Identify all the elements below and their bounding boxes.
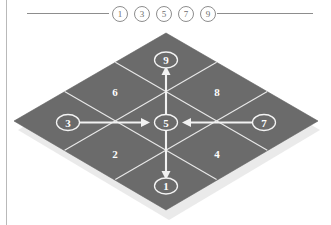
header-circled-number-5: 5 bbox=[156, 6, 172, 22]
header-rule-left bbox=[27, 13, 109, 14]
cell-label-4[interactable]: 4 bbox=[214, 148, 220, 160]
node-7-label: 7 bbox=[261, 117, 267, 129]
node-9[interactable]: 9 bbox=[155, 52, 178, 68]
cell-4-label: 4 bbox=[214, 148, 220, 160]
cell-label-6[interactable]: 6 bbox=[112, 86, 118, 98]
cell-6-label: 6 bbox=[112, 86, 118, 98]
node-5[interactable]: 5 bbox=[155, 115, 178, 131]
page-root: 1 3 5 7 9 bbox=[0, 0, 331, 225]
header: 1 3 5 7 9 bbox=[0, 0, 331, 26]
node-3-label: 3 bbox=[65, 117, 71, 129]
node-1-label: 1 bbox=[163, 180, 169, 192]
node-7[interactable]: 7 bbox=[253, 115, 276, 131]
node-9-label: 9 bbox=[163, 54, 169, 66]
node-5-label: 5 bbox=[163, 117, 169, 129]
header-circled-number-9: 9 bbox=[200, 6, 216, 22]
header-circled-number-3: 3 bbox=[134, 6, 150, 22]
cell-label-2[interactable]: 2 bbox=[112, 148, 118, 160]
node-1[interactable]: 1 bbox=[155, 178, 178, 194]
header-rule-right bbox=[217, 13, 313, 14]
isometric-grid-diagram: 9 3 5 7 1 6 8 bbox=[0, 24, 331, 225]
cell-label-8[interactable]: 8 bbox=[214, 86, 220, 98]
header-circled-number-7: 7 bbox=[178, 6, 194, 22]
cell-2-label: 2 bbox=[112, 148, 118, 160]
isometric-board-svg: 9 3 5 7 1 6 8 bbox=[0, 24, 331, 225]
node-3[interactable]: 3 bbox=[57, 115, 80, 131]
header-number-list: 1 3 5 7 9 bbox=[112, 5, 216, 22]
header-circled-number-1: 1 bbox=[112, 6, 128, 22]
cell-8-label: 8 bbox=[214, 86, 220, 98]
